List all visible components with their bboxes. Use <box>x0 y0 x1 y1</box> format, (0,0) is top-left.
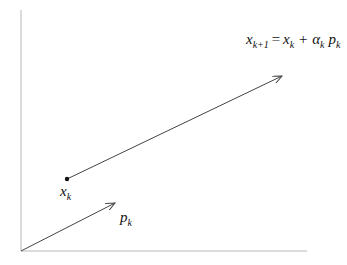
direction-arrow <box>21 203 115 251</box>
diagram-canvas: xk pk xk+1=xk+αkpk <box>0 0 347 265</box>
pk-label: pk <box>119 209 133 228</box>
xk-label: xk <box>59 183 72 202</box>
update-equation: xk+1=xk+αkpk <box>245 31 341 50</box>
step-arrow <box>67 76 282 179</box>
point-xk <box>65 177 69 181</box>
